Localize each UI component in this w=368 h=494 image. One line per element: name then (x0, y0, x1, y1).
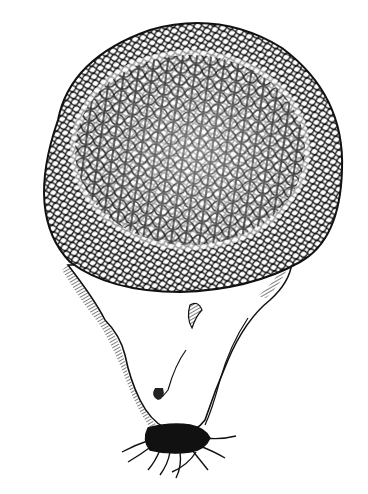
illustration-canvas (0, 0, 368, 494)
roots (122, 424, 236, 478)
puffball-illustration (0, 0, 368, 494)
